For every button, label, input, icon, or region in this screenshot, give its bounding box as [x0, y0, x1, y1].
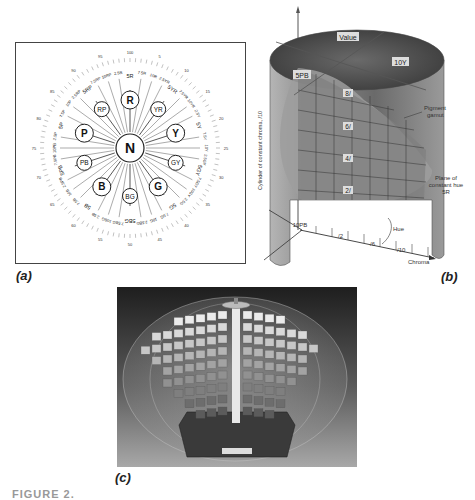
principal-hue-label: GY	[171, 159, 181, 166]
hue-tick-label: 7.5G	[160, 212, 170, 220]
hue-tick-label: 2.5Y	[194, 109, 202, 119]
hue-tick-label: 7.5RP	[89, 75, 101, 85]
hue-tick-label: 7.5BG	[112, 220, 124, 227]
hue-tick-label: 10R	[149, 72, 158, 79]
outer-number-label: 75	[32, 146, 37, 151]
principal-hue-label: YR	[154, 106, 163, 113]
hue-tick-label: 2.5GY	[202, 154, 209, 166]
hue-tick-label: 7.5P	[58, 108, 66, 118]
figure-caption: FIGURE 2.	[12, 488, 75, 500]
outer-number-label: 70	[36, 175, 41, 180]
hue-tick-label: 5B	[83, 202, 92, 211]
munsell-cylinder-diagram: Value 5PB 10Y 8/ 6/ 4/ 2/ Pigmentgamut P…	[244, 0, 475, 285]
hue-tick-label: 10B	[64, 188, 72, 197]
principal-hue-label: PB	[80, 159, 89, 166]
hue-tick-label: 10BG	[101, 216, 112, 224]
hue-tick-label: 5GY	[194, 164, 203, 177]
hue-tick-label: 7.5YR	[178, 89, 189, 100]
principal-hue-label: Y	[172, 128, 179, 139]
tree-trunk	[232, 305, 240, 423]
munsell-solid-panel: Value 5PB 10Y 8/ 6/ 4/ 2/ Pigmentgamut P…	[244, 0, 475, 285]
hue-arrow-icon	[382, 218, 391, 244]
outer-number-label: 5	[159, 54, 162, 59]
hue-tick-label: 10RP	[101, 72, 112, 80]
hue-tick-label: 5BG	[124, 218, 135, 224]
principal-hue-label: B	[98, 181, 105, 192]
hue-tick-label: 2.5R	[114, 70, 123, 76]
outer-number-label: 80	[36, 116, 41, 121]
chroma-tick-6: /6	[370, 241, 376, 247]
outer-number-label: 100	[127, 50, 134, 55]
panel-label-a: (a)	[16, 268, 32, 283]
base-plaque	[222, 448, 252, 454]
hue-tick-label: 5R	[126, 73, 133, 79]
neutral-label: N	[125, 140, 135, 156]
hue-label-5pb: 5PB	[295, 72, 309, 79]
munsell-hue-circle-panel: 5R7.5R10R2.5YR5YR7.5YR10YR2.5Y5Y7.5Y10Y2…	[15, 42, 246, 264]
hue-tick-label: 2.5PB	[57, 176, 67, 188]
hue-tick-label: 5P	[57, 121, 65, 130]
hue-tick-label: 2.5YR	[158, 76, 170, 86]
outer-number-label: 20	[219, 116, 224, 121]
hue-circle-diagram: 5R7.5R10R2.5YR5YR7.5YR10YR2.5Y5Y7.5Y10Y2…	[16, 43, 244, 262]
principal-hue-label: BG	[125, 193, 134, 200]
value-label-4: 4/	[345, 155, 351, 162]
hue-tick-label: 2.5B	[90, 211, 100, 219]
munsell-tree-photo	[117, 287, 357, 467]
hue-tick-label: 7.5B	[71, 197, 81, 207]
hue-tick-label: 10G	[149, 217, 158, 224]
cylinder-label: Cylinder of constant chroma, /10	[257, 111, 263, 190]
outer-number-label: 60	[71, 223, 76, 228]
hue-tick-label: 10GY	[186, 187, 196, 198]
hue-tick-label: 5Y	[195, 121, 203, 130]
value-label-2: 2/	[345, 187, 351, 194]
hue-tick-label: 5G	[168, 202, 177, 211]
outer-number-label: 25	[224, 146, 229, 151]
outer-number-label: 95	[98, 54, 103, 59]
outer-number-label: 40	[184, 223, 189, 228]
value-label-6: 6/	[345, 123, 351, 130]
outer-number-label: 55	[98, 237, 103, 242]
hue-tick-label: 2.5P	[52, 131, 58, 140]
outer-number-label: 85	[50, 89, 55, 94]
chroma-axis	[300, 230, 434, 258]
munsell-tree-image	[117, 287, 357, 467]
hue-label-10y: 10Y	[394, 59, 407, 66]
hue-tick-label: 7.5PB	[52, 154, 59, 166]
hue-tick-label: 2.5BG	[136, 220, 148, 227]
panel-label-c: (c)	[115, 470, 131, 485]
pigment-gamut-label: Pigmentgamut	[424, 105, 446, 118]
hue-tick-label: 5YR	[167, 84, 179, 95]
outer-number-label: 65	[50, 202, 55, 207]
principal-hue-label: G	[154, 181, 162, 192]
chroma-tick-2: /2	[338, 233, 344, 239]
chroma-tick-10: /10	[397, 247, 406, 253]
hue-tick-label: 7.5Y	[202, 132, 208, 141]
principal-hue-label: RP	[97, 106, 106, 113]
hue-tick-label: 2.5G	[179, 197, 189, 207]
hue-label-10pb: 10PB	[293, 222, 308, 228]
chroma-axis-label: Chroma	[408, 259, 430, 265]
value-axis-label: Value	[339, 34, 356, 41]
hue-tick-label: 7.5R	[137, 70, 146, 76]
hue-arrow-label: Hue	[393, 226, 405, 232]
outer-number-label: 50	[128, 242, 133, 247]
outer-number-label: 35	[205, 202, 210, 207]
outer-number-label: 10	[184, 68, 189, 73]
hue-tick-label: 10P	[64, 99, 72, 108]
hue-tick-label: 7.5GY	[193, 176, 203, 189]
hue-tick-label: 10Y	[204, 144, 209, 151]
outer-number-label: 45	[157, 237, 162, 242]
panel-label-b: (b)	[441, 269, 458, 284]
value-label-8: 8/	[345, 90, 351, 97]
outer-number-label: 15	[205, 89, 210, 94]
value-axis-arrow-icon	[296, 6, 300, 13]
principal-hue-label: R	[126, 95, 134, 106]
hue-tick-label: 10PB	[52, 143, 57, 153]
hue-tick-label: 10YR	[187, 98, 197, 109]
hue-tick-label: 5PB	[56, 164, 65, 176]
outer-number-label: 90	[71, 68, 76, 73]
hue-tick-label: 5RP	[81, 84, 93, 95]
principal-hue-label: P	[81, 128, 88, 139]
outer-number-label: 30	[219, 175, 224, 180]
